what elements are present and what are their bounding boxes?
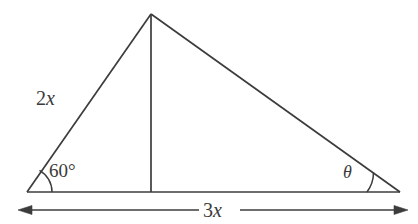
triangle-right-side-line [151, 14, 400, 192]
label-left-side-length: 2x [36, 88, 55, 108]
label-right-angle-theta: θ [343, 163, 352, 181]
dimension-arrowhead-left [18, 206, 32, 215]
geometry-figure: 2x 60° θ 3x [0, 0, 418, 224]
label-left-angle: 60° [49, 161, 76, 180]
dimension-arrowhead-right [394, 206, 408, 215]
label-left-side-variable: x [46, 87, 55, 109]
label-base-variable: x [213, 199, 222, 221]
right-angle-arc [367, 173, 374, 193]
triangle-diagram-canvas [0, 0, 418, 224]
label-base-coefficient: 3 [203, 199, 213, 221]
label-left-side-coefficient: 2 [36, 87, 46, 109]
label-base-length: 3x [199, 200, 226, 220]
